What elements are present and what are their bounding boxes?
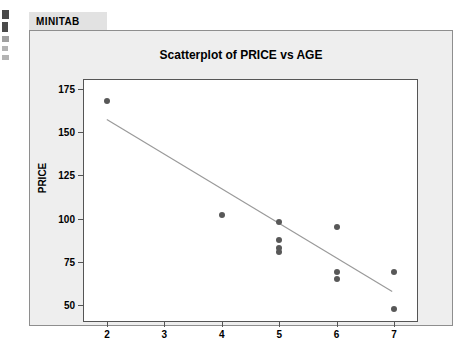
y-axis-tick-label: 50 [64, 300, 75, 311]
chart-title: Scatterplot of PRICE vs AGE [30, 48, 452, 62]
y-axis-title: PRICE [37, 163, 48, 194]
x-axis-tick [279, 321, 280, 327]
minitab-tab-label: MINITAB [36, 16, 80, 27]
y-axis-tick-label: 125 [58, 170, 75, 181]
data-point [334, 224, 340, 230]
data-point [276, 237, 282, 243]
y-axis-tick-label: 150 [58, 127, 75, 138]
figure-panel: Scatterplot of PRICE vs AGE PRICE 507510… [29, 30, 453, 326]
data-point [276, 249, 282, 255]
y-axis-tick [78, 89, 84, 90]
margin-mark [2, 10, 9, 19]
data-point [334, 276, 340, 282]
x-axis-tick-label: 3 [162, 329, 168, 340]
page-margin-artifact [0, 8, 12, 72]
margin-mark [2, 55, 9, 60]
y-axis-tick [78, 262, 84, 263]
x-axis-tick [394, 321, 395, 327]
x-axis-tick [107, 321, 108, 327]
y-axis-tick-label: 75 [64, 257, 75, 268]
x-axis-tick [222, 321, 223, 327]
plot-frame: 5075100125150175234567 [83, 79, 418, 322]
margin-mark [2, 46, 8, 51]
y-axis-tick [78, 132, 84, 133]
x-axis-tick-label: 6 [334, 329, 340, 340]
x-axis-tick-label: 5 [276, 329, 282, 340]
x-axis-tick-label: 2 [104, 329, 110, 340]
regression-line [84, 80, 417, 321]
data-point [391, 306, 397, 312]
data-point [104, 98, 110, 104]
plot-area: 5075100125150175234567 [84, 80, 417, 321]
x-axis-tick [164, 321, 165, 327]
y-axis-tick [78, 219, 84, 220]
minitab-tab: MINITAB [29, 12, 107, 30]
data-point [219, 212, 225, 218]
x-axis-tick-label: 7 [391, 329, 397, 340]
scatterplot-chart: Scatterplot of PRICE vs AGE PRICE 507510… [30, 31, 452, 325]
margin-mark [2, 22, 8, 32]
y-axis-tick-label: 175 [58, 83, 75, 94]
margin-mark [2, 36, 9, 42]
y-axis-tick [78, 175, 84, 176]
x-axis-tick-label: 4 [219, 329, 225, 340]
x-axis-tick [337, 321, 338, 327]
y-axis-tick-label: 100 [58, 213, 75, 224]
y-axis-tick [78, 305, 84, 306]
